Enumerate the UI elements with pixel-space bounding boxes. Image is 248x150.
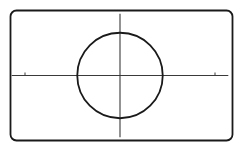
plot-svg	[0, 0, 248, 150]
graph-display	[0, 0, 248, 150]
